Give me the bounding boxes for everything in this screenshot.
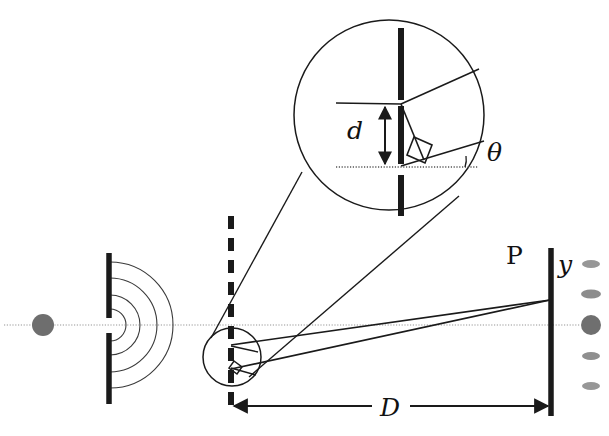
path-difference-leg (401, 104, 424, 160)
screen-distance-label: D (380, 395, 400, 420)
small-circle-detail-lines (231, 346, 258, 375)
interference-fringe-pattern (581, 260, 601, 390)
fringe-spot (582, 382, 600, 390)
diagram-canvas (0, 0, 609, 436)
fringe-spot (582, 260, 600, 268)
slit-separation-label: d (347, 118, 363, 143)
ray-from-upper-slit (231, 300, 550, 345)
angle-theta-label: θ (487, 140, 502, 165)
screen-point-label: P (506, 243, 523, 268)
light-source-dot (32, 314, 54, 336)
double-slit-diagram: d θ D y P (0, 0, 609, 436)
magnified-upper-ray (401, 69, 479, 104)
magnifier-connector-upper (211, 172, 302, 338)
magnifier-connector-lower (249, 196, 459, 377)
magnified-upper-reference (336, 103, 401, 104)
fringe-spot (581, 290, 601, 299)
fringe-offset-label: y (558, 252, 572, 277)
interference-rays (231, 300, 550, 369)
fringe-spot (581, 315, 601, 335)
magnified-detail-circle (294, 20, 484, 210)
fringe-spot (582, 352, 600, 360)
theta-angle-marker (465, 156, 466, 167)
ray-from-lower-slit (231, 300, 550, 369)
